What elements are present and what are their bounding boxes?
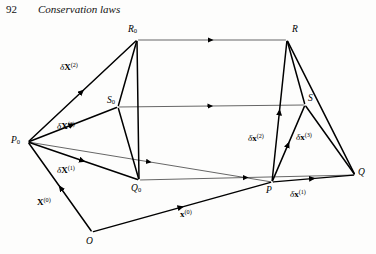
vertex-label-P: P xyxy=(266,186,272,196)
vector-label-dx3: δx(3) xyxy=(296,132,312,142)
vertex-label-O: O xyxy=(86,237,93,247)
book-page: 92 Conservation laws P0Q0R0S0PQRSOδX(2)δ… xyxy=(0,0,376,254)
arrowhead-P-S xyxy=(287,144,289,148)
edge-S-Q xyxy=(306,106,354,174)
vector-label-x0: x(0) xyxy=(180,209,192,219)
edge-R0-S0 xyxy=(118,41,136,105)
arrowhead-P0-Q0 xyxy=(80,160,84,161)
edge-R-Q xyxy=(288,41,355,173)
arrowhead-P0-P xyxy=(146,161,150,162)
vector-label-dX2: δX(2) xyxy=(60,62,78,72)
edge-R-S xyxy=(287,41,304,103)
edge-S0-Q0 xyxy=(118,108,138,178)
vector-label-X0: X(0) xyxy=(37,197,51,207)
vertex-label-Q: Q xyxy=(358,168,365,178)
edge-R0-Q0 xyxy=(137,41,139,178)
vertex-label-S0: S0 xyxy=(107,96,115,106)
arrowhead-O-P0 xyxy=(60,187,62,190)
vertex-label-S: S xyxy=(308,94,313,104)
arrowhead-P0-R0 xyxy=(80,91,83,94)
vector-label-dX3: δX(3) xyxy=(57,121,75,131)
vector-label-dx2: δx(2) xyxy=(248,133,264,143)
vertex-label-R0: R0 xyxy=(128,25,137,35)
vector-label-dX1: δX(1) xyxy=(57,165,75,175)
vertex-label-Q0: Q0 xyxy=(131,184,141,194)
vertex-label-R: R xyxy=(292,25,298,35)
vector-label-dx1: δx(1) xyxy=(290,189,306,199)
vertex-label-P0: P0 xyxy=(11,136,20,146)
